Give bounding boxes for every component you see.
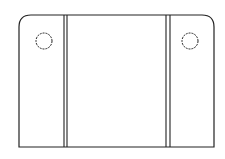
right-mounting-hole [182, 33, 198, 49]
left-mounting-hole [36, 33, 52, 49]
plate-drawing [0, 0, 225, 159]
